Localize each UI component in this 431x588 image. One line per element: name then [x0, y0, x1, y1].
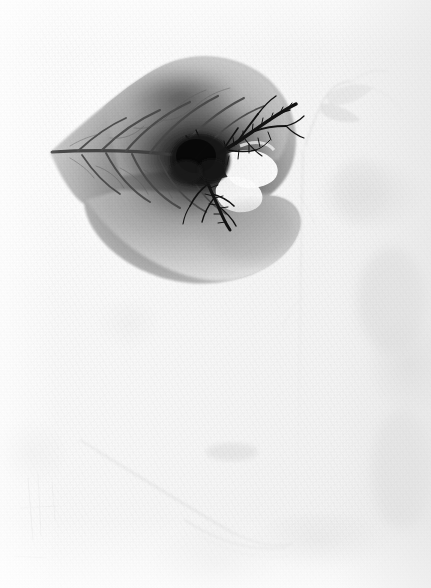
- artwork-canvas: Leaf Photogram with Thorn Branch 431 × 5…: [0, 0, 431, 588]
- paper-vignette-layer: [0, 0, 431, 588]
